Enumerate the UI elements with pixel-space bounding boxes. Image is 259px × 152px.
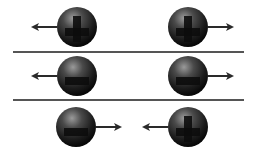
positive-charge [168, 7, 232, 47]
row-3-attract [56, 107, 208, 147]
negative-charge [168, 56, 232, 96]
charge-sphere-icon [57, 56, 97, 96]
charge-interaction-diagram [0, 0, 259, 152]
charge-rows [33, 7, 232, 147]
row-1-repel [33, 7, 232, 47]
minus-sign-icon [176, 77, 200, 85]
positive-charge [144, 107, 208, 147]
minus-sign-icon [64, 128, 88, 136]
positive-charge [33, 7, 97, 47]
row-2-repel [33, 56, 232, 96]
negative-charge [56, 107, 120, 147]
charge-sphere-icon [168, 56, 208, 96]
negative-charge [33, 56, 97, 96]
charge-sphere-icon [56, 107, 96, 147]
minus-sign-icon [65, 77, 89, 85]
